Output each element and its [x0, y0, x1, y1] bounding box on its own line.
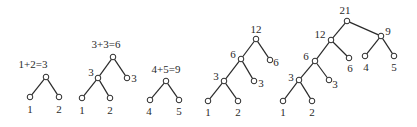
tree-node — [296, 77, 302, 83]
tree-node — [221, 78, 227, 84]
tree-node — [251, 78, 257, 84]
tree-edge — [317, 42, 330, 59]
tree-node — [79, 95, 85, 101]
tree-edge — [285, 82, 298, 99]
tree-edge — [48, 79, 58, 94]
tree-node — [107, 95, 113, 101]
node-weight-label: 3 — [332, 78, 338, 90]
merge-equation-label: 1+2=3 — [19, 58, 48, 70]
tree-edge — [301, 63, 313, 78]
node-weight-label: 1 — [205, 106, 211, 118]
tree-node — [328, 37, 334, 43]
tree-node — [147, 97, 153, 103]
diagram-canvas: 121+2=333123+3=6454+5=912663312211296645… — [0, 0, 417, 127]
tree-node — [163, 78, 169, 84]
tree-node — [110, 54, 116, 60]
node-weight-label: 5 — [391, 61, 397, 73]
tree-edge — [317, 63, 328, 77]
node-weight-label: 4 — [146, 105, 152, 117]
tree-edge — [243, 41, 255, 57]
node-weight-label: 6 — [347, 62, 353, 74]
tree-4: 12663312 — [205, 23, 279, 118]
node-weight-label: 3 — [88, 66, 94, 78]
tree-node — [267, 57, 273, 63]
node-weight-label: 6 — [273, 56, 279, 68]
tree-node — [176, 97, 182, 103]
tree-edge — [100, 59, 112, 75]
node-weight-label: 4 — [363, 61, 369, 73]
tree-edge — [300, 82, 310, 98]
node-weight-label: 6 — [303, 50, 309, 62]
node-weight-label: 1 — [79, 104, 85, 116]
huffman-tree-diagram: 121+2=333123+3=6454+5=912663312211296645… — [0, 0, 417, 127]
tree-node — [309, 98, 315, 104]
tree-2: 33123+3=6 — [79, 38, 137, 116]
node-weight-label: 2 — [107, 104, 113, 116]
tree-1: 121+2=3 — [19, 58, 62, 115]
node-weight-label: 21 — [340, 4, 351, 16]
tree-node — [326, 77, 332, 83]
tree-node — [95, 75, 101, 81]
node-weight-label: 6 — [230, 48, 236, 60]
tree-node — [378, 33, 384, 39]
tree-edge — [383, 38, 393, 53]
tree-edge — [115, 59, 126, 75]
tree-edge — [367, 38, 380, 54]
node-weight-label: 3 — [131, 72, 137, 84]
node-weight-label: 3 — [288, 71, 294, 83]
tree-edge — [226, 61, 240, 79]
tree-edge — [333, 42, 347, 56]
node-weight-label: 3 — [258, 77, 264, 89]
tree-node — [253, 36, 259, 42]
tree-3: 454+5=9 — [146, 63, 182, 117]
tree-node — [344, 18, 350, 24]
tree-node — [124, 75, 130, 81]
tree-edge — [350, 22, 379, 35]
node-weight-label: 9 — [385, 25, 391, 37]
tree-node — [205, 98, 211, 104]
tree-node — [280, 98, 286, 104]
node-weight-label: 3 — [213, 70, 219, 82]
node-weight-label: 2 — [235, 106, 241, 118]
tree-edge — [242, 61, 252, 78]
tree-node — [27, 94, 33, 100]
merge-equation-label: 4+5=9 — [152, 63, 181, 75]
tree-node — [346, 55, 352, 61]
node-weight-label: 12 — [251, 23, 262, 35]
tree-node — [43, 74, 49, 80]
node-weight-label: 12 — [315, 28, 326, 40]
tree-edge — [84, 80, 97, 96]
tree-edge — [99, 80, 108, 95]
node-weight-label: 5 — [176, 105, 182, 117]
tree-edge — [168, 83, 178, 97]
tree-node — [312, 58, 318, 64]
tree-edge — [32, 79, 45, 95]
node-weight-label: 1 — [27, 103, 33, 115]
tree-edge — [333, 23, 345, 38]
node-weight-label: 1 — [280, 106, 286, 118]
tree-edge — [210, 83, 223, 99]
tree-edge — [258, 41, 269, 57]
tree-node — [362, 53, 368, 59]
tree-5: 2112966453312 — [280, 4, 397, 118]
merge-equation-label: 3+3=6 — [92, 38, 121, 50]
tree-node — [56, 94, 62, 100]
tree-node — [238, 56, 244, 62]
tree-node — [391, 53, 397, 59]
tree-node — [235, 98, 241, 104]
node-weight-label: 2 — [309, 106, 315, 118]
tree-edge — [226, 83, 237, 98]
node-weight-label: 2 — [56, 103, 62, 115]
tree-edge — [152, 83, 164, 98]
